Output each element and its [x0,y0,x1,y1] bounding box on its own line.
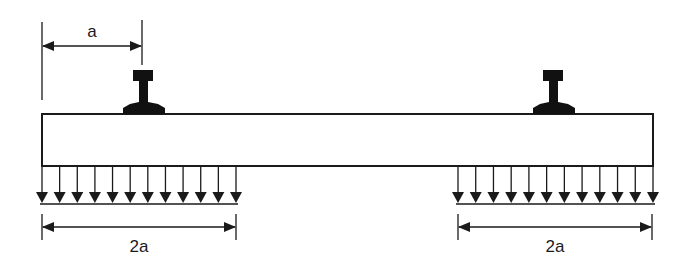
load-arrow-head-icon [159,192,171,203]
load-arrow-head-icon [452,192,464,203]
dimension-2a-right: 2a [458,214,652,256]
load-arrow-head-icon [541,192,553,203]
distributed-load-left [36,166,242,204]
load-arrow-head-icon [71,192,83,203]
load-arrow-head-icon [487,192,499,203]
load-arrow-head-icon [523,192,535,203]
load-arrow-head-icon [124,192,136,203]
load-arrow-head-icon [54,192,66,203]
load-arrow-head-icon [647,192,659,203]
load-arrow-head-icon [230,192,242,203]
dimension-a: a [42,20,142,100]
load-arrow-head-icon [142,192,154,203]
load-arrow-head-icon [629,192,641,203]
load-arrow-head-icon [36,192,48,203]
beam [42,114,653,166]
beam-loading-diagram: a 2a 2a [0,0,689,266]
load-arrow-head-icon [576,192,588,203]
load-arrow-head-icon [612,192,624,203]
load-arrow-head-icon [594,192,606,203]
dimension-label-a: a [87,22,97,41]
load-arrow-head-icon [558,192,570,203]
rail-left-icon [123,70,165,114]
load-arrow-head-icon [195,192,207,203]
dimension-2a-left: 2a [42,214,236,256]
load-arrow-head-icon [505,192,517,203]
diagram-canvas: a 2a 2a [0,0,689,266]
load-arrow-head-icon [177,192,189,203]
distributed-load-right [452,166,659,204]
load-arrow-head-icon [89,192,101,203]
dimension-label-2a-right: 2a [546,237,565,256]
dimension-label-2a-left: 2a [130,237,149,256]
rail-right-icon [533,70,575,114]
load-arrow-head-icon [470,192,482,203]
load-arrow-head-icon [107,192,119,203]
load-arrow-head-icon [212,192,224,203]
